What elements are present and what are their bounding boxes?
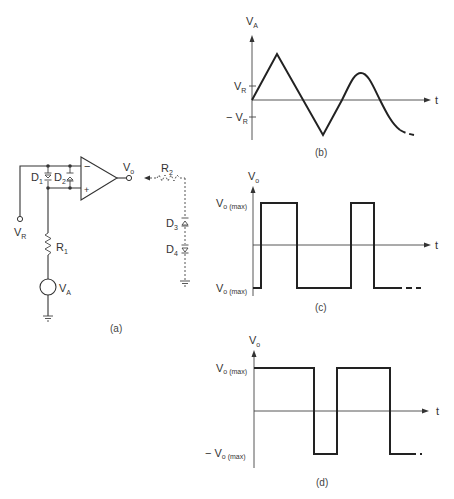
axis-arrow-icon [250, 35, 255, 42]
tick-label-vo-max-high: Vo (max) [216, 362, 247, 376]
tick-label-vr: VR [234, 80, 246, 94]
x-axis-label: t [435, 239, 438, 251]
vr-label: VR [14, 226, 26, 240]
caption-a: (a) [110, 323, 122, 334]
y-axis-label: Vo [248, 170, 259, 184]
vr-terminal [17, 216, 22, 221]
y-axis-label: Vo [249, 334, 260, 348]
d1-label: D1 [31, 171, 43, 185]
vr-wire [20, 166, 81, 216]
caption-d: (d) [316, 477, 328, 488]
d2-label: D2 [54, 171, 66, 185]
vo-label: Vo [123, 161, 134, 175]
tick-label-vo-max-low: Vo (max) [216, 282, 247, 296]
axis-arrow-icon [252, 350, 257, 357]
resistor-r1-icon [45, 233, 51, 255]
noninverting-input-sign: + [84, 185, 89, 195]
arrow-left-icon [144, 176, 150, 181]
ground-icon [43, 316, 53, 321]
input-waveform [252, 54, 400, 135]
r2-label: R2 [161, 162, 173, 176]
output-waveform-c [253, 203, 396, 288]
axis-arrow-icon [422, 409, 429, 414]
tick-label-vo-max-high: Vo (max) [216, 197, 247, 211]
axis-arrow-icon [424, 243, 431, 248]
diode-d2-icon [67, 166, 74, 188]
x-axis-label: t [436, 405, 439, 417]
tick-label-neg-vo-max: − Vo (max) [205, 447, 246, 461]
caption-c: (c) [315, 302, 327, 313]
ground-icon [180, 281, 190, 286]
diode-d3-icon [182, 218, 189, 226]
hysteresis-feedback-branch: R2 D3 D4 [144, 162, 190, 286]
tick-label-neg-vr: − VR [226, 111, 248, 125]
graph-b: t VA VR − VR (b) [226, 15, 438, 158]
diode-d1-icon [45, 166, 52, 188]
vo-terminal [126, 175, 131, 180]
graph-c: t Vo Vo (max) Vo (max) (c) [216, 170, 438, 313]
graph-d: t Vo Vo (max) − Vo (max) (d) [205, 334, 439, 488]
input-waveform-continuation [400, 130, 414, 135]
caption-b: (b) [315, 147, 327, 158]
voltage-source-va-icon [40, 279, 56, 295]
y-axis-label: VA [246, 15, 258, 29]
diode-d4-icon [182, 245, 189, 253]
d4-label: D4 [166, 243, 178, 257]
x-axis-label: t [435, 94, 438, 106]
axis-arrow-icon [424, 98, 431, 103]
va-label: VA [59, 282, 71, 296]
inverting-input-sign: − [84, 160, 90, 172]
d3-label: D3 [166, 217, 178, 231]
axis-arrow-icon [251, 186, 256, 193]
r1-label: R1 [56, 241, 68, 255]
circuit-diagram: D1 D2 − + Vo VR R1 VA R2 [14, 157, 190, 334]
